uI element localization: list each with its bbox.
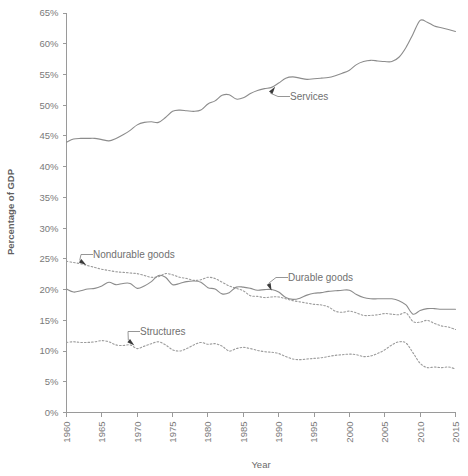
annotation-leader-structures — [128, 332, 140, 341]
x-axis-tick-labels: 1960196519701975198019851990199520002005… — [61, 422, 461, 443]
y-tick-label: 60% — [39, 38, 59, 49]
series-annotations: ServicesNondurable goodsDurable goodsStr… — [79, 87, 353, 346]
y-axis-ticks — [63, 13, 67, 413]
series-line-durable-goods — [67, 275, 456, 314]
x-tick-label: 1960 — [61, 422, 72, 443]
y-tick-label: 45% — [39, 130, 59, 141]
y-tick-label: 35% — [39, 192, 59, 203]
y-tick-label: 50% — [39, 100, 59, 111]
y-tick-label: 40% — [39, 161, 59, 172]
x-tick-label: 2005 — [379, 422, 390, 443]
x-tick-label: 1990 — [273, 422, 284, 443]
data-series-layer — [67, 20, 456, 369]
y-axis-title: Percentage of GDP — [5, 168, 16, 255]
gdp-composition-line-chart: 0%5%10%15%20%25%30%35%40%45%50%55%60%65%… — [0, 0, 468, 476]
x-tick-label: 2010 — [415, 422, 426, 443]
y-tick-label: 20% — [39, 284, 59, 295]
x-axis-ticks — [67, 413, 456, 417]
y-axis-tick-labels: 0%5%10%15%20%25%30%35%40%45%50%55%60%65% — [39, 7, 59, 418]
series-label-nondurable-goods: Nondurable goods — [93, 249, 175, 260]
series-label-services: Services — [290, 91, 328, 102]
series-line-nondurable-goods — [67, 261, 456, 329]
y-tick-label: 0% — [45, 407, 59, 418]
y-tick-label: 25% — [39, 253, 59, 264]
x-axis-title: Year — [251, 459, 270, 470]
series-label-structures: Structures — [140, 326, 186, 337]
series-line-services — [67, 20, 456, 142]
x-tick-label: 1995 — [308, 422, 319, 443]
y-tick-label: 10% — [39, 345, 59, 356]
x-tick-label: 1965 — [96, 422, 107, 443]
chart-container: 0%5%10%15%20%25%30%35%40%45%50%55%60%65%… — [0, 0, 468, 476]
series-line-structures — [67, 341, 456, 369]
annotation-leader-durable-goods — [269, 278, 289, 284]
axes — [63, 13, 456, 417]
y-tick-label: 55% — [39, 69, 59, 80]
annotation-leader-services — [270, 93, 290, 96]
x-tick-label: 1970 — [132, 422, 143, 443]
x-tick-label: 2015 — [450, 422, 461, 443]
y-tick-label: 30% — [39, 223, 59, 234]
series-label-durable-goods: Durable goods — [288, 272, 353, 283]
annotation-structures: Structures — [127, 326, 185, 346]
annotation-services: Services — [269, 87, 328, 102]
annotation-durable-goods: Durable goods — [267, 272, 353, 291]
y-tick-label: 5% — [45, 376, 59, 387]
x-tick-label: 1980 — [202, 422, 213, 443]
x-tick-label: 1975 — [167, 422, 178, 443]
y-tick-label: 15% — [39, 315, 59, 326]
annotation-nondurable-goods: Nondurable goods — [79, 249, 175, 265]
x-tick-label: 2000 — [344, 422, 355, 443]
x-tick-label: 1985 — [238, 422, 249, 443]
y-tick-label: 65% — [39, 7, 59, 18]
